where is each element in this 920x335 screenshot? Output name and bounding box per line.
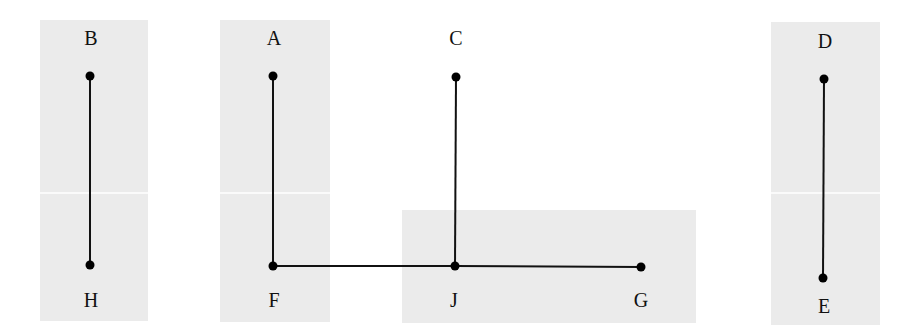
- node-f-dot: [269, 262, 278, 271]
- node-label-f: F: [268, 289, 279, 311]
- node-e-dot: [819, 274, 828, 283]
- region-af: [220, 20, 330, 322]
- edge-d-e: [823, 79, 824, 278]
- node-label-a: A: [267, 27, 282, 49]
- region-bh: [40, 20, 148, 321]
- node-label-h: H: [84, 289, 98, 311]
- node-label-d: D: [818, 30, 832, 52]
- node-b-dot: [86, 72, 95, 81]
- edge-c-j: [455, 77, 456, 266]
- node-h-dot: [86, 261, 95, 270]
- graph-diagram: BHAFCJGDE: [0, 0, 920, 335]
- node-c-dot: [452, 73, 461, 82]
- node-g-dot: [637, 263, 646, 272]
- node-label-b: B: [84, 27, 97, 49]
- node-j-dot: [451, 262, 460, 271]
- node-label-g: G: [634, 289, 648, 311]
- node-label-j: J: [450, 289, 458, 311]
- edge-j-g: [455, 266, 641, 267]
- node-label-e: E: [818, 295, 830, 317]
- node-label-c: C: [449, 27, 462, 49]
- shaded-regions: [40, 20, 880, 325]
- node-a-dot: [269, 72, 278, 81]
- node-d-dot: [820, 75, 829, 84]
